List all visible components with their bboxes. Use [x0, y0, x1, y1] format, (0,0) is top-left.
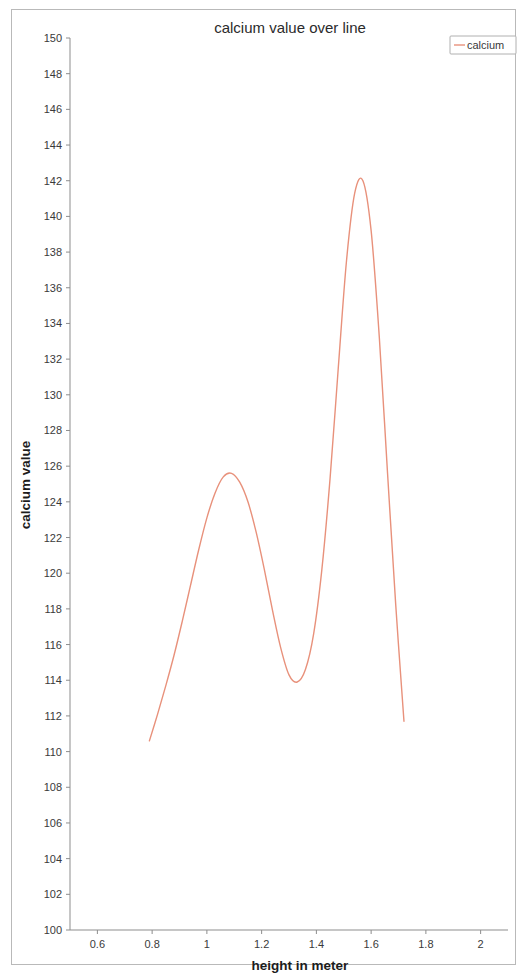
y-tick-label: 116	[44, 639, 62, 651]
y-tick-label: 134	[44, 317, 62, 329]
y-tick-label: 120	[44, 567, 62, 579]
legend-label-calcium[interactable]: calcium	[467, 39, 504, 51]
y-tick-label: 136	[44, 282, 62, 294]
x-tick-label: 1.2	[254, 938, 269, 950]
y-tick-label: 144	[44, 139, 62, 151]
data-series-line	[149, 178, 404, 741]
x-tick-label: 0.8	[144, 938, 159, 950]
y-tick-label: 118	[44, 603, 62, 615]
y-tick-label: 126	[44, 460, 62, 472]
x-tick-label: 1	[204, 938, 210, 950]
y-tick-label: 142	[44, 175, 62, 187]
x-tick-label: 2	[478, 938, 484, 950]
y-tick-label: 114	[44, 674, 62, 686]
y-axis-title: calcium value	[18, 440, 33, 529]
y-tick-label: 108	[44, 781, 62, 793]
x-axis-ticks: 0.60.811.21.41.61.82	[90, 930, 484, 950]
y-tick-label: 106	[44, 817, 62, 829]
y-tick-label: 140	[44, 210, 62, 222]
x-axis-title: height in meter	[252, 958, 350, 973]
y-tick-label: 150	[44, 32, 62, 44]
y-tick-label: 100	[44, 924, 62, 936]
y-tick-label: 110	[44, 746, 62, 758]
x-tick-label: 0.6	[90, 938, 105, 950]
calcium-line-chart: calcium value over line calcium value he…	[0, 0, 524, 975]
x-tick-label: 1.4	[309, 938, 324, 950]
chart-legend[interactable]: calcium	[450, 36, 516, 54]
x-tick-label: 1.8	[418, 938, 433, 950]
y-tick-label: 102	[44, 888, 62, 900]
y-tick-label: 148	[44, 68, 62, 80]
y-tick-label: 124	[44, 496, 62, 508]
y-axis-ticks: 1001021041061081101121141161181201221241…	[44, 32, 70, 936]
y-tick-label: 122	[44, 532, 62, 544]
chart-title: calcium value over line	[214, 19, 366, 36]
x-tick-label: 1.6	[363, 938, 378, 950]
y-tick-label: 112	[44, 710, 62, 722]
y-tick-label: 104	[44, 853, 62, 865]
y-tick-label: 132	[44, 353, 62, 365]
y-tick-label: 128	[44, 424, 62, 436]
y-tick-label: 146	[44, 103, 62, 115]
y-tick-label: 130	[44, 389, 62, 401]
data-series-group	[149, 178, 404, 741]
y-tick-label: 138	[44, 246, 62, 258]
